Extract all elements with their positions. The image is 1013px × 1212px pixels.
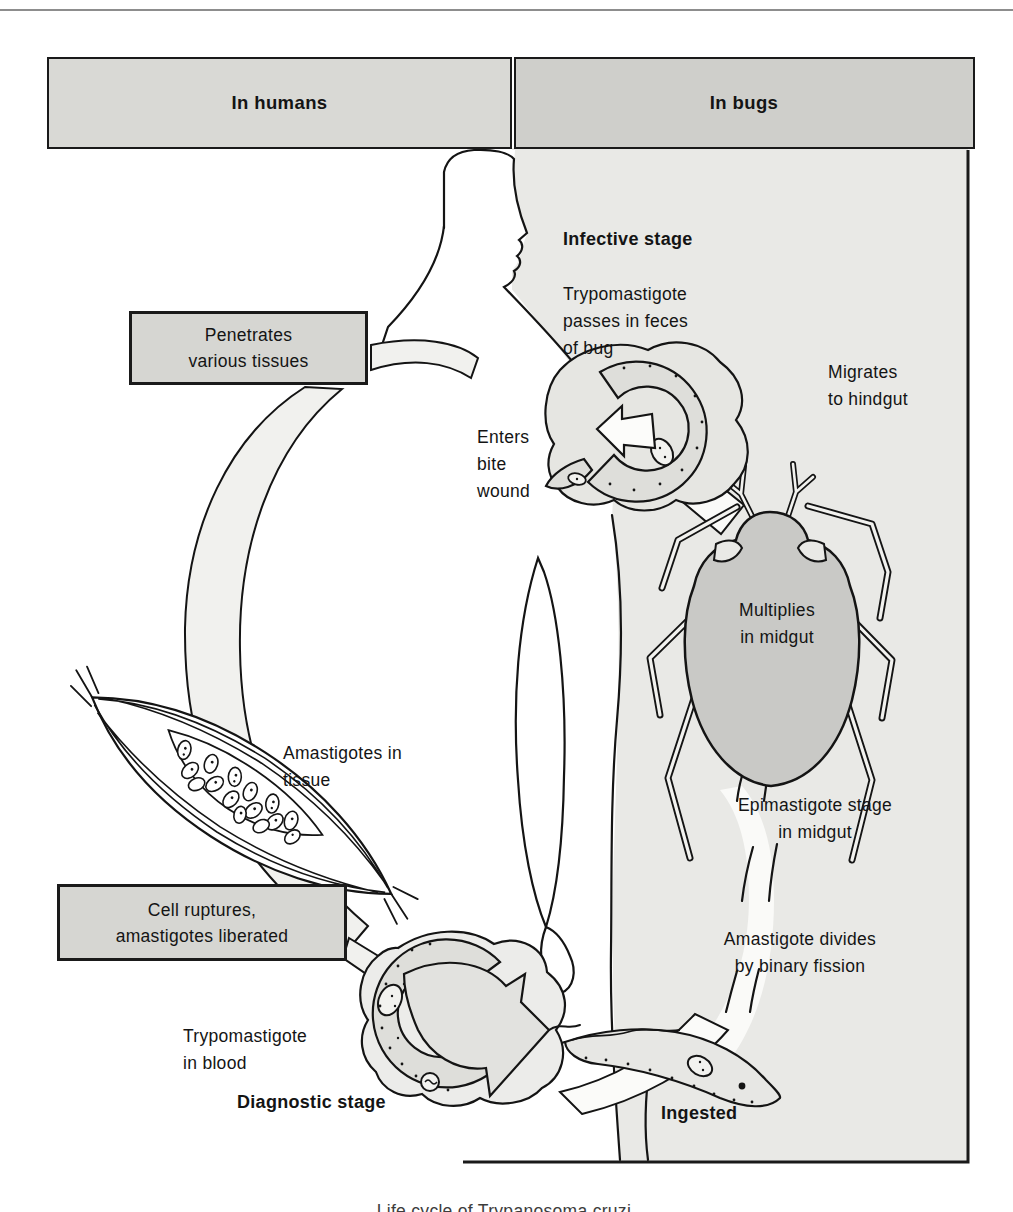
header-in-humans: In humans xyxy=(47,57,512,149)
header-in-bugs: In bugs xyxy=(514,57,975,149)
kinetoplast-dot xyxy=(739,1083,746,1090)
infective-stage-label: Infective stage xyxy=(563,226,693,253)
trypomastigote-blood-label: Trypomastigote in blood xyxy=(183,1023,307,1077)
cell-ruptures-box: Cell ruptures, amastigotes liberated xyxy=(57,884,347,961)
infective-trypomastigote-illustration xyxy=(545,342,747,510)
header-in-humans-label: In humans xyxy=(231,92,327,114)
migrates-hindgut-label: Migrates to hindgut xyxy=(828,359,908,413)
amastigote-divides-label: Amastigote divides by binary fission xyxy=(700,926,900,980)
ingested-label: Ingested xyxy=(661,1100,737,1127)
enters-bite-wound-label: Enters bite wound xyxy=(477,424,530,505)
figure-caption: Life cycle of Trypanosoma cruzi. xyxy=(0,1200,1013,1212)
trypomastigote-feces-label: Trypomastigote passes in feces of bug xyxy=(563,281,688,362)
figure-page: In humans In bugs Penetrates various tis… xyxy=(0,0,1013,1212)
diagnostic-stage-label: Diagnostic stage xyxy=(237,1089,386,1116)
penetrates-tissues-box: Penetrates various tissues xyxy=(129,311,368,385)
amastigotes-tissue-label: Amastigotes in tissue xyxy=(283,740,402,794)
epimastigote-stage-label: Epimastigote stage in midgut xyxy=(715,792,915,846)
multiplies-midgut-label: Multiplies in midgut xyxy=(692,597,862,651)
header-in-bugs-label: In bugs xyxy=(710,92,779,114)
